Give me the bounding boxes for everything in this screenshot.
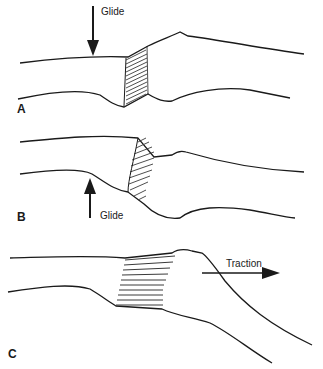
panel-label-c: C xyxy=(8,347,17,361)
panel-a: Glide A xyxy=(0,0,323,120)
panel-b: Glide B xyxy=(0,120,323,245)
joint-traction-diagram xyxy=(0,245,323,369)
arrow-up-icon xyxy=(84,178,96,194)
panel-label-a: A xyxy=(17,102,26,116)
joint-capsule-hatch xyxy=(116,256,175,305)
joint-glide-down-diagram xyxy=(0,0,323,120)
panel-c: Traction C xyxy=(0,245,323,369)
arrow-down-icon xyxy=(87,40,99,56)
arrow-right-icon xyxy=(262,267,280,279)
joint-glide-up-diagram xyxy=(0,120,323,245)
traction-label: Traction xyxy=(226,258,262,269)
panel-label-b: B xyxy=(17,210,26,224)
glide-label-a: Glide xyxy=(101,6,124,17)
glide-label-b: Glide xyxy=(100,210,123,221)
joint-capsule-hatch xyxy=(129,138,154,200)
